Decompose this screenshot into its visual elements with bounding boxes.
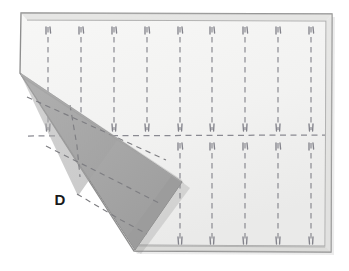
diagram-canvas: D — [0, 0, 349, 271]
fold-label-d: D — [55, 191, 66, 208]
folded-cloth-illustration: D — [0, 0, 349, 271]
